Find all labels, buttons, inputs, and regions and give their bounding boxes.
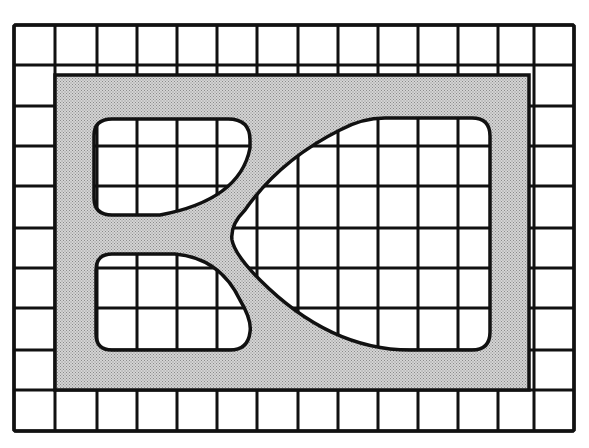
diagram-canvas [0,0,589,448]
grid-diagram [0,0,589,448]
